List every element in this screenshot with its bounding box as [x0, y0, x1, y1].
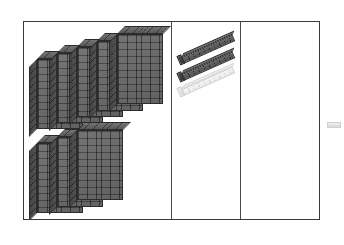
- hundreds-column[interactable]: [24, 22, 171, 219]
- flat-side-face: [29, 59, 37, 137]
- tens-column[interactable]: [172, 22, 240, 219]
- hundreds-flat[interactable]: [69, 122, 115, 200]
- flat-front-face: [117, 34, 163, 104]
- flat-side-face: [49, 53, 57, 131]
- ones-column[interactable]: [241, 22, 319, 219]
- flat-side-face: [69, 47, 77, 125]
- tens-rod-group[interactable]: [176, 28, 238, 100]
- flat-side-face: [89, 41, 97, 119]
- flat-side-face: [109, 34, 117, 112]
- stray-unit-marker[interactable]: [327, 122, 341, 128]
- workspace-stage: [0, 0, 344, 245]
- place-value-board[interactable]: [23, 21, 320, 220]
- flat-side-face: [69, 130, 77, 208]
- flat-side-face: [29, 143, 37, 219]
- hundreds-flat[interactable]: [109, 26, 155, 104]
- flat-top-face: [117, 26, 171, 34]
- flat-side-face: [49, 137, 57, 215]
- flat-front-face: [77, 130, 123, 200]
- flat-top-face: [77, 122, 131, 130]
